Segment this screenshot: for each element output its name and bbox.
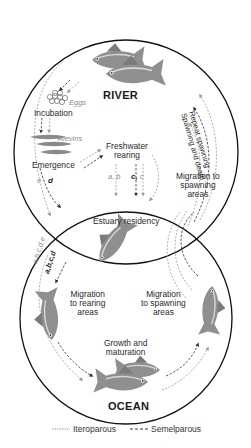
alevins-label: Alevins (58, 134, 82, 143)
ocean-fish-illustration (93, 356, 160, 393)
code-c-iteroparous-label: c (140, 172, 144, 181)
ocean-title: OCEAN (106, 400, 151, 412)
salmon-life-cycle-diagram: RIVER OCEAN Eggs Incubation Alevins Emer… (0, 0, 251, 448)
code-d-label: d (48, 176, 53, 185)
code-c-semelparous-label: c, (131, 172, 138, 181)
iteroparous-line-icon (52, 427, 70, 431)
eggs-illustration (47, 90, 67, 104)
migration-to-rearing-label: Migration to rearing areas (70, 290, 105, 317)
code-e-label: e (37, 176, 41, 185)
river-fish-illustration (92, 43, 166, 85)
ocean-left-fish-illustration (32, 287, 62, 341)
legend-item-iteroparous: Iteroparous (52, 424, 116, 434)
incubation-label: Incubation (34, 109, 73, 118)
ocean-right-fish-illustration (198, 285, 227, 336)
migration-to-spawning-ocean-label: Migration to spawning areas (141, 290, 186, 317)
freshwater-rearing-label: Freshwater rearing (106, 142, 148, 160)
eggs-label: Eggs (69, 98, 86, 107)
code-ab-label: a, b (108, 172, 121, 181)
emergence-label: Emergence (32, 161, 75, 170)
growth-and-maturation-label: Growth and maturation (104, 339, 147, 357)
semelparous-line-icon (130, 427, 148, 431)
legend-item-semelparous: Semelparous (130, 424, 201, 434)
estuary-residency-label: Estuary residency (93, 217, 160, 226)
river-title: RIVER (101, 89, 140, 101)
legend: Iteroparous Semelparous (52, 424, 201, 434)
